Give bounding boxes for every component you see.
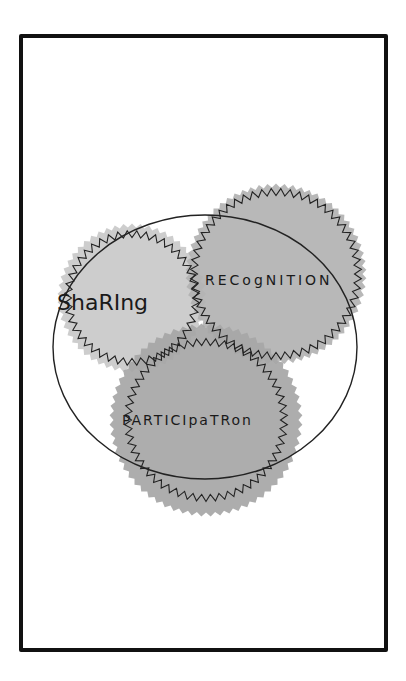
- participation-label: PARTICIpaTRon: [122, 412, 253, 428]
- sharing-label: ShaRIng: [57, 290, 148, 315]
- circle-fills: [58, 184, 367, 517]
- venn-diagram: ShaRIng RECogNITION PARTICIpaTRon: [0, 0, 406, 681]
- recognition-label: RECogNITION: [205, 272, 333, 288]
